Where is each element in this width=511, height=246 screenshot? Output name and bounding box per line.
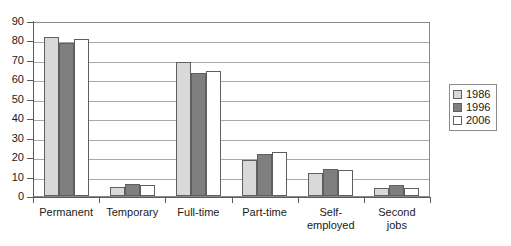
y-axis-tick-label: 50 [0, 94, 24, 105]
bar-1996-part-time [257, 154, 272, 196]
legend: 198619962006 [449, 84, 497, 131]
bar-2006-permanent [74, 39, 89, 197]
gridline [33, 42, 429, 43]
legend-item-label: 1996 [466, 102, 490, 113]
gridline [33, 62, 429, 63]
plot-area [33, 22, 430, 197]
gridline [33, 101, 429, 102]
y-axis-tick-label: 20 [0, 152, 24, 163]
x-axis-category-label: Part-time [232, 206, 298, 219]
bar-1996-permanent [59, 43, 74, 196]
bar-2006-second-jobs [404, 188, 419, 196]
bar-1996-self--employed [323, 169, 338, 196]
x-axis-category-label: Full-time [165, 206, 231, 219]
legend-item-2006[interactable]: 2006 [453, 114, 493, 127]
x-axis-tick [430, 197, 431, 203]
legend-item-label: 1986 [466, 89, 490, 100]
x-axis-tick [364, 197, 365, 203]
y-axis-tick-label: 0 [0, 191, 24, 202]
x-axis-category-label: Self- employed [298, 206, 364, 232]
legend-item-label: 2006 [466, 115, 490, 126]
y-axis-line [33, 21, 34, 198]
legend-swatch-1986 [453, 90, 462, 99]
bar-1996-second-jobs [389, 185, 404, 196]
y-axis-labels: 0102030405060708090 [0, 0, 33, 246]
bar-chart: 0102030405060708090 PermanentTemporaryFu… [0, 0, 511, 246]
gridline [33, 179, 429, 180]
y-axis-tick-label: 60 [0, 74, 24, 85]
bar-2006-part-time [272, 152, 287, 196]
bar-1996-full-time [191, 73, 206, 196]
x-axis-category-label: Temporary [99, 206, 165, 219]
legend-item-1996[interactable]: 1996 [453, 101, 493, 114]
x-axis-tick [33, 197, 34, 203]
gridline [33, 159, 429, 160]
x-axis-tick [232, 197, 233, 203]
legend-swatch-1996 [453, 103, 462, 112]
bar-1986-temporary [110, 187, 125, 196]
gridline [33, 81, 429, 82]
bar-1986-full-time [176, 62, 191, 196]
x-axis-category-label: Second jobs [364, 206, 430, 232]
bar-2006-full-time [206, 71, 221, 196]
bar-1996-temporary [125, 184, 140, 196]
x-axis-tick [99, 197, 100, 203]
y-axis-tick-label: 80 [0, 35, 24, 46]
y-axis-tick-label: 40 [0, 113, 24, 124]
x-axis-category-label: Permanent [33, 206, 99, 219]
bar-2006-self--employed [338, 170, 353, 196]
bar-1986-second-jobs [374, 188, 389, 196]
x-axis-tick [298, 197, 299, 203]
y-axis-tick-label: 10 [0, 172, 24, 183]
y-axis-tick-label: 30 [0, 133, 24, 144]
gridline [33, 120, 429, 121]
bar-1986-part-time [242, 160, 257, 196]
x-axis-tick [165, 197, 166, 203]
gridline [33, 140, 429, 141]
y-axis-tick-label: 90 [0, 16, 24, 27]
legend-swatch-2006 [453, 116, 462, 125]
bar-1986-self--employed [308, 173, 323, 196]
bar-2006-temporary [140, 185, 155, 196]
bar-1986-permanent [44, 37, 59, 196]
y-axis-tick-label: 70 [0, 55, 24, 66]
legend-item-1986[interactable]: 1986 [453, 88, 493, 101]
